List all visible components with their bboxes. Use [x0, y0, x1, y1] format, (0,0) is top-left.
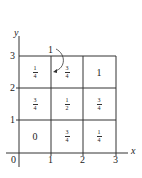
denominator: 4 [66, 137, 69, 143]
denominator: 4 [66, 73, 69, 79]
numerator: 1 [98, 129, 101, 135]
cell-r1-c0: 34 [19, 88, 51, 120]
numerator: 3 [66, 129, 69, 135]
cell-value: 1 [97, 67, 102, 78]
cell-r0-c0: 14 [19, 56, 51, 88]
x-tick-label-3: 3 [113, 155, 118, 165]
denominator: 4 [34, 105, 37, 111]
denominator: 4 [34, 73, 37, 79]
fraction: 14 [97, 129, 102, 143]
numerator: 3 [66, 65, 69, 71]
y-axis-label: y [14, 28, 18, 38]
cell-value: 0 [33, 131, 38, 142]
fraction: 34 [65, 129, 70, 143]
cell-r0-c2: 1 [83, 56, 115, 88]
y-tick-label-1: 1 [10, 115, 15, 125]
cell-r0-c1: 34 [51, 56, 83, 88]
fraction: 12 [65, 97, 70, 111]
fraction: 34 [65, 65, 70, 79]
cell-r2-c2: 14 [83, 120, 115, 152]
cell-r1-c1: 12 [51, 88, 83, 120]
cell-r2-c1: 34 [51, 120, 83, 152]
y-tick-label-3: 3 [10, 51, 15, 61]
numerator: 3 [34, 97, 37, 103]
denominator: 4 [98, 105, 101, 111]
cell-r1-c2: 34 [83, 88, 115, 120]
y-tick-label-2: 2 [10, 83, 15, 93]
denominator: 2 [66, 105, 69, 111]
x-tick-label-1: 1 [48, 155, 53, 165]
x-axis-label: x [131, 146, 135, 156]
cell-r2-c0: 0 [19, 120, 51, 152]
fraction: 14 [33, 65, 38, 79]
x-tick-label-2: 2 [80, 155, 85, 165]
numerator: 3 [98, 97, 101, 103]
numerator: 1 [34, 65, 37, 71]
fraction: 34 [97, 97, 102, 111]
fraction: 34 [33, 97, 38, 111]
denominator: 4 [98, 137, 101, 143]
top-label: 1 [48, 45, 53, 55]
numerator: 1 [66, 97, 69, 103]
origin-label: 0 [11, 155, 16, 165]
